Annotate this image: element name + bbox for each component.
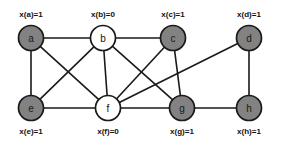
node-letter-b: b bbox=[100, 33, 106, 44]
graph-node-g[interactable]: g bbox=[170, 96, 195, 121]
graph-edge-a-f bbox=[40, 46, 99, 100]
node-letter-e: e bbox=[28, 103, 34, 114]
graph-diagram: abcdefgh x(a)=1x(b)=0x(c)=1x(d)=1x(e)=1x… bbox=[0, 0, 281, 146]
node-value-label-e: x(e)=1 bbox=[19, 127, 43, 136]
node-letter-h: h bbox=[246, 103, 252, 114]
node-value-label-b: x(b)=0 bbox=[91, 10, 115, 19]
graph-node-h[interactable]: h bbox=[237, 96, 262, 121]
node-value-label-a: x(a)=1 bbox=[19, 10, 43, 19]
graph-edge-d-f bbox=[119, 43, 239, 102]
graph-node-a[interactable]: a bbox=[19, 26, 44, 51]
graph-node-e[interactable]: e bbox=[19, 96, 44, 121]
graph-canvas: abcdefgh x(a)=1x(b)=0x(c)=1x(d)=1x(e)=1x… bbox=[0, 0, 281, 146]
node-letter-g: g bbox=[179, 103, 185, 114]
node-letter-c: c bbox=[171, 33, 176, 44]
node-value-label-c: x(c)=1 bbox=[161, 10, 185, 19]
graph-node-d[interactable]: d bbox=[237, 26, 262, 51]
graph-node-b[interactable]: b bbox=[91, 26, 116, 51]
graph-node-f[interactable]: f bbox=[96, 96, 121, 121]
node-value-label-g: x(g)=1 bbox=[170, 127, 194, 136]
node-letter-f: f bbox=[107, 103, 110, 114]
graph-edge-b-f bbox=[104, 50, 107, 96]
node-value-label-f: x(f)=0 bbox=[97, 127, 119, 136]
node-value-label-d: x(d)=1 bbox=[237, 10, 261, 19]
graph-edge-b-g bbox=[112, 46, 173, 100]
graph-node-c[interactable]: c bbox=[161, 26, 186, 51]
node-value-label-h: x(h)=1 bbox=[237, 127, 261, 136]
edges-layer bbox=[31, 38, 249, 108]
node-letter-d: d bbox=[246, 33, 252, 44]
node-letter-a: a bbox=[28, 33, 34, 44]
